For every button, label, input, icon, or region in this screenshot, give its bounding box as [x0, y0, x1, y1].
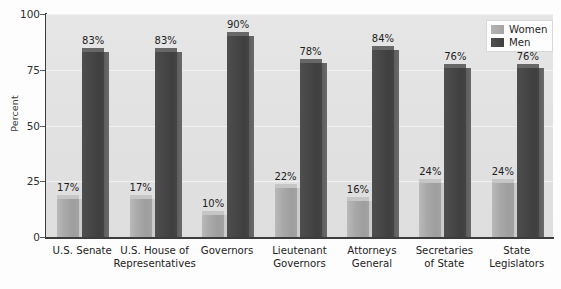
bar-men-2 — [227, 36, 249, 237]
bar-side-face — [104, 52, 109, 237]
bar-men-0 — [82, 52, 104, 237]
bar-top-face — [155, 48, 177, 52]
bar-face — [347, 201, 369, 237]
bar-top-face — [275, 184, 297, 188]
bar-face — [57, 199, 79, 237]
bar-men-6 — [517, 68, 539, 237]
bar-face — [419, 183, 441, 237]
gridline — [46, 14, 553, 15]
bar-women-6 — [492, 183, 514, 237]
bar-value-label: 76% — [438, 51, 472, 62]
bar-face — [517, 68, 539, 237]
bar-face — [444, 68, 466, 237]
bar-women-2 — [202, 215, 224, 237]
chart-legend: WomenMen — [486, 20, 553, 52]
bar-men-1 — [155, 52, 177, 237]
bar-face — [372, 50, 394, 237]
bar-value-label: 78% — [294, 46, 328, 57]
y-axis-tick-labels: 0255075100 — [8, 0, 40, 289]
bar-value-label: 10% — [196, 198, 230, 209]
legend-item-men[interactable]: Men — [491, 37, 547, 48]
bar-value-label: 17% — [124, 182, 158, 193]
y-axis-tick-mark — [40, 237, 45, 238]
bar-top-face — [372, 46, 394, 50]
bar-face — [492, 183, 514, 237]
y-axis-tick-label: 50 — [12, 121, 40, 131]
bar-top-face — [347, 197, 369, 201]
legend-label: Men — [509, 37, 531, 48]
bar-value-label: 84% — [366, 33, 400, 44]
bar-top-face — [57, 195, 79, 199]
bar-value-label: 22% — [269, 171, 303, 182]
bar-face — [300, 63, 322, 237]
bar-value-label: 83% — [76, 35, 110, 46]
bar-women-5 — [419, 183, 441, 237]
legend-label: Women — [509, 24, 547, 35]
y-axis-tick-mark — [40, 126, 45, 127]
y-axis-tick-label: 0 — [12, 232, 40, 242]
bar-top-face — [444, 64, 466, 68]
bar-value-label: 24% — [486, 166, 520, 177]
x-axis-category-labels: U.S. SenateU.S. House of Representatives… — [46, 245, 553, 289]
x-axis-category-label: State Legislators — [475, 245, 559, 270]
bar-value-label: 90% — [221, 19, 255, 30]
bar-men-4 — [372, 50, 394, 237]
bar-face — [275, 188, 297, 237]
legend-swatch-icon — [491, 25, 504, 34]
bar-value-label: 16% — [341, 184, 375, 195]
plot-area: 17%83%17%83%10%90%22%78%16%84%24%76%24%7… — [46, 14, 553, 237]
y-axis-tick-mark — [40, 70, 45, 71]
bar-side-face — [539, 68, 544, 237]
bar-value-label: 76% — [511, 51, 545, 62]
y-axis-tick-mark — [40, 181, 45, 182]
bar-face — [227, 36, 249, 237]
bar-face — [155, 52, 177, 237]
bar-face — [130, 199, 152, 237]
bar-side-face — [466, 68, 471, 237]
legend-item-women[interactable]: Women — [491, 24, 547, 35]
bar-top-face — [492, 179, 514, 183]
bar-side-face — [322, 63, 327, 237]
y-axis-tick-label: 100 — [12, 9, 40, 19]
bar-men-3 — [300, 63, 322, 237]
legend-swatch-icon — [491, 38, 504, 47]
bar-side-face — [394, 50, 399, 237]
bar-top-face — [130, 195, 152, 199]
bar-top-face — [300, 59, 322, 63]
bar-value-label: 24% — [413, 166, 447, 177]
bar-side-face — [177, 52, 182, 237]
bar-top-face — [419, 179, 441, 183]
bar-face — [82, 52, 104, 237]
bar-top-face — [202, 211, 224, 215]
bar-women-4 — [347, 201, 369, 237]
y-axis-tick-mark — [40, 14, 45, 15]
bar-top-face — [517, 64, 539, 68]
y-axis-tick-label: 25 — [12, 176, 40, 186]
y-axis-tick-label: 75 — [12, 65, 40, 75]
bar-women-3 — [275, 188, 297, 237]
bar-women-1 — [130, 199, 152, 237]
bar-face — [202, 215, 224, 237]
bar-top-face — [82, 48, 104, 52]
bar-value-label: 17% — [51, 182, 85, 193]
x-axis-line — [45, 237, 554, 239]
bar-value-label: 83% — [149, 35, 183, 46]
bar-women-0 — [57, 199, 79, 237]
bar-chart: Percent 0255075100 17%83%17%83%10%90%22%… — [0, 0, 561, 289]
bar-side-face — [249, 36, 254, 237]
bar-top-face — [227, 32, 249, 36]
bar-men-5 — [444, 68, 466, 237]
